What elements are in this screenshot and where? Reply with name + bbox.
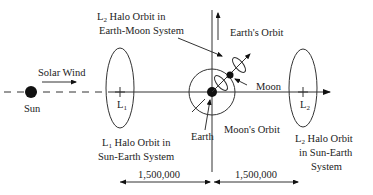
earths-orbit-label: Earth's Orbit (230, 27, 284, 38)
l2-se-halo-label-line3: System (311, 161, 342, 172)
distance-right-label: 1,500,000 (235, 169, 277, 180)
sun-icon (25, 86, 37, 98)
l1-point-icon (115, 87, 125, 97)
moon-pointer (235, 79, 247, 85)
solar-wind-label: Solar Wind (38, 67, 86, 78)
distance-left-label: 1,500,000 (138, 169, 180, 180)
moon-icon (227, 72, 234, 79)
l2-se-halo-label-line1: L2 Halo Orbit (295, 133, 353, 146)
l2-point-icon (298, 87, 308, 97)
l2-se-halo-label-line2: in Sun-Earth (299, 147, 353, 158)
l2-em-halo-label-line1: L2 Halo Orbit in (97, 11, 166, 24)
distance-left-start-arrowhead (120, 180, 126, 185)
moon-label: Moon (256, 81, 282, 92)
sun-label: Sun (24, 103, 41, 114)
moons-orbit-label: Moon's Orbit (224, 124, 280, 135)
l1-label: L1 (117, 99, 127, 112)
l1-halo-label-line2: Sun-Earth System (98, 151, 174, 162)
l2-em-pointer (178, 38, 222, 56)
earth-label: Earth (191, 131, 214, 142)
l1-halo-label-line1: L1 Halo Orbit in (102, 137, 171, 150)
distance-right-start-arrowhead (214, 180, 220, 185)
l2-label: L2 (300, 99, 310, 112)
l2-em-halo-label-line2: Earth-Moon System (99, 25, 184, 36)
halo-orbit-diagram: Sun Solar Wind L1 L1 Halo Orbit in Sun-E… (0, 0, 373, 195)
